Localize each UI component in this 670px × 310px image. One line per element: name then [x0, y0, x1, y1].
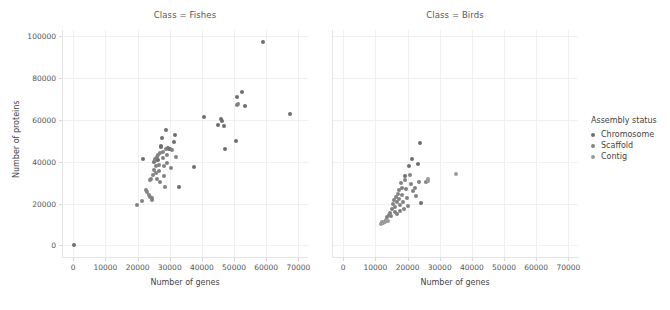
data-point	[243, 104, 247, 108]
facet-fishes: Class = Fishes01000020000300004000050000…	[0, 0, 670, 310]
legend-label-chromosome: Chromosome	[601, 130, 654, 139]
gridline-vertical	[266, 30, 267, 258]
data-point	[157, 163, 161, 167]
y-tick-label: 100000	[0, 32, 56, 41]
gridline-horizontal	[62, 162, 308, 163]
data-point	[141, 157, 145, 161]
x-axis-label: Number of genes	[62, 278, 308, 287]
y-axis-line	[62, 30, 63, 258]
y-tickmark	[59, 162, 62, 163]
data-point	[261, 40, 265, 44]
legend-swatch-contig	[591, 155, 595, 159]
data-point	[288, 112, 292, 116]
data-point	[149, 177, 153, 181]
legend-swatch-chromosome	[591, 133, 595, 137]
data-point	[157, 169, 161, 173]
x-tickmark	[266, 258, 267, 261]
legend-item-contig[interactable]: Contig	[591, 151, 669, 162]
y-tickmark	[59, 36, 62, 37]
legend-item-chromosome[interactable]: Chromosome	[591, 129, 669, 140]
chart-legend: Assembly status Chromosome Scaffold Cont…	[591, 116, 669, 162]
data-point	[236, 102, 240, 106]
x-tick-label: 60000	[254, 263, 278, 272]
data-point	[140, 199, 144, 203]
data-point	[156, 158, 160, 162]
x-axis-line	[62, 257, 308, 258]
gridline-vertical	[202, 30, 203, 258]
scatter-figure: Class = Birds010000200003000040000500006…	[0, 0, 670, 310]
data-point	[150, 198, 154, 202]
data-point	[234, 139, 238, 143]
gridline-vertical	[138, 30, 139, 258]
y-tickmark	[59, 120, 62, 121]
x-tick-label: 20000	[126, 263, 150, 272]
data-point	[192, 165, 196, 169]
data-point	[223, 147, 227, 151]
data-point	[173, 133, 177, 137]
y-tickmark	[59, 78, 62, 79]
y-tick-label: 40000	[0, 157, 56, 166]
gridline-horizontal	[62, 245, 308, 246]
data-point	[240, 90, 244, 94]
gridline-horizontal	[62, 120, 308, 121]
x-tickmark	[105, 258, 106, 261]
gridline-horizontal	[62, 78, 308, 79]
data-point	[135, 203, 139, 207]
y-tick-label: 0	[0, 241, 56, 250]
x-tick-label: 10000	[93, 263, 117, 272]
data-point	[158, 180, 162, 184]
legend-label-contig: Contig	[601, 152, 627, 161]
data-point	[235, 95, 239, 99]
data-point	[170, 148, 174, 152]
data-point	[169, 166, 173, 170]
data-point	[160, 136, 164, 140]
y-tickmark	[59, 245, 62, 246]
y-tick-label: 80000	[0, 74, 56, 83]
y-tickmark	[59, 204, 62, 205]
plot-area-fishes	[62, 30, 308, 258]
x-tickmark	[73, 258, 74, 261]
data-point	[216, 123, 220, 127]
legend-title: Assembly status	[591, 116, 669, 125]
gridline-horizontal	[62, 204, 308, 205]
facet-title-fishes: Class = Fishes	[62, 10, 308, 20]
gridline-vertical	[234, 30, 235, 258]
x-tickmark	[234, 258, 235, 261]
legend-swatch-scaffold	[591, 144, 595, 148]
gridline-vertical	[298, 30, 299, 258]
x-tick-label: 50000	[222, 263, 246, 272]
x-tick-label: 40000	[190, 263, 214, 272]
data-point	[202, 115, 206, 119]
data-point	[177, 185, 181, 189]
data-point	[161, 156, 165, 160]
x-tickmark	[202, 258, 203, 261]
gridline-vertical	[170, 30, 171, 258]
data-point	[220, 119, 224, 123]
data-point	[164, 128, 168, 132]
data-point	[174, 155, 178, 159]
legend-label-scaffold: Scaffold	[601, 141, 633, 150]
data-point	[222, 124, 226, 128]
x-tick-label: 30000	[158, 263, 182, 272]
gridline-horizontal	[62, 36, 308, 37]
legend-item-scaffold[interactable]: Scaffold	[591, 140, 669, 151]
data-point	[162, 174, 166, 178]
data-point	[172, 140, 176, 144]
y-tick-label: 20000	[0, 199, 56, 208]
y-tick-label: 60000	[0, 115, 56, 124]
x-tickmark	[138, 258, 139, 261]
x-tickmark	[170, 258, 171, 261]
data-point	[163, 185, 167, 189]
data-point	[165, 153, 169, 157]
x-tick-label: 70000	[286, 263, 310, 272]
gridline-vertical	[73, 30, 74, 258]
data-point	[72, 243, 76, 247]
x-tickmark	[298, 258, 299, 261]
gridline-vertical	[105, 30, 106, 258]
y-axis-label: Number of proteins	[12, 100, 21, 178]
x-tick-label: 0	[71, 263, 76, 272]
